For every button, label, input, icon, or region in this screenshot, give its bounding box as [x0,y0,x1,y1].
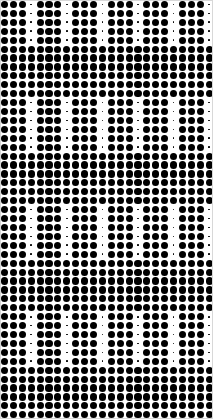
halftone-dot-small [102,137,104,139]
halftone-dot-large [81,170,88,177]
halftone-dot-large [188,108,195,115]
halftone-dot-large [108,63,115,70]
halftone-dot-large [206,367,213,374]
halftone-dot-large [28,295,35,302]
halftone-dot-large [143,376,150,383]
halftone-dot-large [117,108,124,115]
halftone-dot-large [63,260,70,267]
halftone-dot-large [19,384,26,391]
halftone-dot-large [197,170,204,177]
halftone-dot-large [45,393,52,400]
halftone-dot-large [54,72,61,79]
halftone-dot-large [81,322,88,329]
halftone-dot-large [72,135,79,142]
halftone-dot-large [126,126,133,133]
halftone-dot-small [137,227,139,229]
halftone-dot-large [81,188,88,195]
halftone-dot-large [143,411,150,418]
halftone-dot-large [1,384,8,391]
halftone-dot-large [90,37,97,44]
halftone-dot-large [152,179,159,186]
halftone-dot-large [37,340,44,347]
halftone-dot-large [197,1,204,8]
halftone-dot-large [117,286,124,293]
halftone-dot-large [188,63,195,70]
halftone-dot-small [30,111,32,113]
halftone-dot-large [19,144,26,151]
halftone-dot-large [45,331,52,338]
halftone-dot-large [10,126,17,133]
halftone-dot-large [37,277,44,284]
halftone-dot-large [188,295,195,302]
halftone-dot-large [28,81,35,88]
halftone-dot-large [90,349,97,356]
halftone-dot-large [126,179,133,186]
halftone-dot-large [37,215,44,222]
halftone-dot-large [134,277,141,284]
halftone-dot-large [117,90,124,97]
halftone-dot-large [45,215,52,222]
halftone-dot-large [197,126,204,133]
halftone-dot-large [161,251,168,258]
halftone-dot-large [152,367,159,374]
halftone-dot-large [170,46,177,53]
halftone-dot-large [63,188,70,195]
halftone-dot-large [197,242,204,249]
halftone-dot-small [208,30,210,32]
halftone-dot-large [161,411,168,418]
halftone-dot-small [137,146,139,148]
halftone-dot-large [117,144,124,151]
halftone-dot-large [72,144,79,151]
halftone-dot-small [102,13,104,15]
halftone-dot-large [63,367,70,374]
halftone-dot-large [45,251,52,258]
halftone-dot-large [152,10,159,17]
halftone-dot-large [188,197,195,204]
halftone-dot-large [10,286,17,293]
halftone-dot-large [206,90,213,97]
halftone-dot-large [54,242,61,249]
halftone-dot-large [108,260,115,267]
halftone-dot-large [45,233,52,240]
halftone-dot-small [102,253,104,255]
halftone-dot-large [19,233,26,240]
halftone-dot-large [108,153,115,160]
halftone-dot-large [90,108,97,115]
halftone-dot-large [161,37,168,44]
halftone-dot-large [37,358,44,365]
halftone-dot-large [10,161,17,168]
halftone-dot-large [126,37,133,44]
halftone-dot-large [108,108,115,115]
halftone-dot-large [19,46,26,53]
halftone-dot-large [179,358,186,365]
halftone-dot-large [161,331,168,338]
halftone-dot-large [117,161,124,168]
halftone-dot-large [72,206,79,213]
halftone-dot-large [90,1,97,8]
halftone-dot-large [10,28,17,35]
halftone-dot-large [206,411,213,418]
halftone-dot-large [161,269,168,276]
halftone-dot-large [143,242,150,249]
halftone-dot-large [37,153,44,160]
halftone-dot-large [1,376,8,383]
halftone-dot-large [37,384,44,391]
halftone-dot-large [63,304,70,311]
halftone-dot-large [161,108,168,115]
halftone-dot-large [37,322,44,329]
halftone-dot-large [63,153,70,160]
halftone-dot-small [137,352,139,354]
halftone-dot-large [188,411,195,418]
halftone-dot-large [19,224,26,231]
halftone-dot-large [152,1,159,8]
halftone-dot-large [63,81,70,88]
halftone-dot-large [117,197,124,204]
halftone-dot-large [37,10,44,17]
halftone-dot-large [108,28,115,35]
halftone-dot-large [81,46,88,53]
halftone-dot-large [197,215,204,222]
halftone-dot-large [126,197,133,204]
halftone-dot-large [117,251,124,258]
halftone-dot-small [102,120,104,122]
halftone-dot-small [173,146,175,148]
